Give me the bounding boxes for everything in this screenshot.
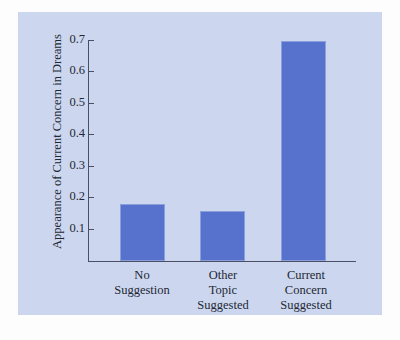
y-tick-mark-0.4 <box>89 134 94 135</box>
x-axis-label-line: Current <box>261 268 351 283</box>
y-tick-label-0.3: 0.3 <box>45 159 85 172</box>
x-axis-line <box>88 261 356 262</box>
chart-screenshot: Appearance of Current Concern in Dreams … <box>0 0 400 340</box>
y-tick-label-0.2: 0.2 <box>45 190 85 203</box>
bar-no-suggestion <box>120 204 165 261</box>
bar-other-topic-suggested <box>200 211 245 261</box>
y-tick-mark-0.3 <box>89 166 94 167</box>
y-tick-label-0.4: 0.4 <box>45 127 85 140</box>
y-tick-label-0.7: 0.7 <box>45 33 85 46</box>
y-tick-label-0.1: 0.1 <box>45 222 85 235</box>
y-tick-mark-0.7 <box>89 40 94 41</box>
y-tick-label-0.6: 0.6 <box>45 64 85 77</box>
x-axis-label-no-suggestion: NoSuggestion <box>100 268 184 298</box>
x-axis-label-other-topic-suggested: OtherTopicSuggested <box>181 268 265 313</box>
x-axis-label-line: Suggested <box>261 298 351 313</box>
x-axis-label-line: Suggestion <box>100 283 184 298</box>
x-axis-label-line: No <box>100 268 184 283</box>
y-tick-mark-0.1 <box>89 229 94 230</box>
x-axis-label-line: Concern <box>261 283 351 298</box>
bar-current-concern-suggested <box>281 41 326 262</box>
x-axis-label-line: Suggested <box>181 298 265 313</box>
x-axis-label-line: Topic <box>181 283 265 298</box>
x-axis-label-current-concern-suggested: CurrentConcernSuggested <box>261 268 351 313</box>
figure-panel: Appearance of Current Concern in Dreams … <box>18 12 382 315</box>
y-tick-label-0.5: 0.5 <box>45 96 85 109</box>
y-tick-mark-0.2 <box>89 197 94 198</box>
y-tick-mark-0.6 <box>89 71 94 72</box>
x-axis-label-line: Other <box>181 268 265 283</box>
y-tick-mark-0.5 <box>89 103 94 104</box>
